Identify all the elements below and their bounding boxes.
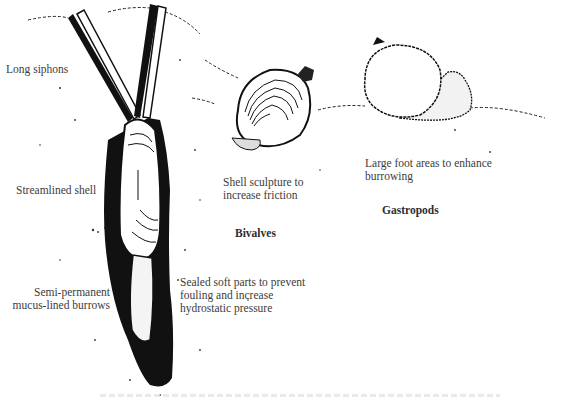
label-burrows-line1: Semi-permanent bbox=[4, 286, 110, 299]
label-sealed-line2: fouling and increase bbox=[180, 289, 305, 302]
label-sealed-line3: hydrostatic pressure bbox=[180, 302, 305, 315]
gastropod-snail bbox=[365, 37, 472, 120]
label-foot-line2: burrowing bbox=[365, 170, 492, 183]
label-burrows: Semi-permanent mucus-lined burrows bbox=[4, 286, 110, 312]
group-title-gastropods: Gastropods bbox=[382, 204, 439, 216]
label-shell-sculpture: Shell sculpture to increase friction bbox=[223, 176, 304, 202]
faded-caption-line bbox=[100, 394, 500, 397]
label-sealed-line1: Sealed soft parts to prevent bbox=[180, 276, 305, 289]
label-streamlined-shell: Streamlined shell bbox=[16, 184, 96, 197]
group-title-bivalves: Bivalves bbox=[235, 227, 276, 239]
label-foot-line1: Large foot areas to enhance bbox=[365, 157, 492, 170]
label-sculpture-line2: increase friction bbox=[223, 189, 304, 202]
clam-shell bbox=[232, 66, 314, 150]
label-long-siphons: Long siphons bbox=[6, 63, 68, 76]
label-burrows-line2: mucus-lined burrows bbox=[4, 299, 110, 312]
label-sealed-soft-parts: Sealed soft parts to prevent fouling and… bbox=[180, 276, 305, 315]
label-large-foot: Large foot areas to enhance burrowing bbox=[365, 157, 492, 183]
label-sculpture-line1: Shell sculpture to bbox=[223, 176, 304, 189]
